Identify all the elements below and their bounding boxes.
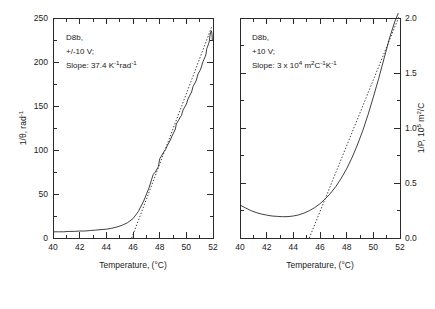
right-panel: 0.0 0.5 1.0 1.5 2.0 40 42 44 46 48 50 52… (235, 13, 426, 270)
left-annotation-line2: +/-10 V; (66, 47, 94, 56)
svg-text:1/P, 105 m2/C: 1/P, 105 m2/C (415, 103, 426, 154)
right-ytick-label: 2.0 (405, 13, 417, 23)
left-yaxis-title: 1/θ, rad-1 (17, 110, 28, 145)
left-annotation-slope-exp2: -1 (131, 59, 137, 66)
right-xtick-label: 42 (262, 242, 272, 252)
right-xaxis-title: Temperature, (°C) (286, 260, 354, 270)
right-data-curve (240, 13, 398, 217)
left-yaxis-title-base: 1/θ, rad (18, 116, 28, 145)
left-xtick-label: 52 (208, 242, 218, 252)
left-yaxis-title-exponent: -1 (17, 110, 24, 116)
left-yaxis-ticks-right (207, 18, 213, 238)
right-yaxis-title: 1/P, 105 m2/C (415, 103, 426, 154)
left-ytick-label: 50 (39, 189, 49, 199)
left-xtick-label: 40 (48, 242, 58, 252)
left-panel: 0 50 100 150 200 250 40 42 44 46 48 50 5… (17, 13, 218, 270)
right-annotation-line1: D8b, (252, 33, 269, 42)
left-ytick-labels: 0 50 100 150 200 250 (34, 13, 48, 243)
right-fit-line (309, 16, 399, 238)
right-xtick-label: 40 (235, 242, 245, 252)
figure-container: 0 50 100 150 200 250 40 42 44 46 48 50 5… (0, 0, 435, 309)
left-xtick-label: 50 (182, 242, 192, 252)
right-yaxis-title-tail-end: /C (416, 103, 426, 112)
right-yaxis-title-tail-base: m (416, 115, 426, 124)
left-ytick-label: 200 (34, 57, 48, 67)
right-xaxis-ticks (240, 232, 400, 238)
left-annotation-slope-mid: rad (120, 61, 132, 70)
left-fit-line (132, 27, 212, 238)
left-annotation: D8b, +/-10 V; Slope: 37.4 K-1rad-1 (66, 33, 137, 70)
right-yaxis-ticks (394, 18, 400, 238)
left-xtick-label: 44 (102, 242, 112, 252)
right-annotation-slope-base: Slope: 3 x 10 (252, 61, 299, 70)
right-yaxis-title-base: 1/P, 10 (416, 127, 426, 153)
left-xtick-label: 46 (128, 242, 138, 252)
right-annotation-line2: +10 V; (252, 47, 275, 56)
right-xtick-label: 46 (315, 242, 325, 252)
right-annotation: D8b, +10 V; Slope: 3 x 104 m2C-1K-1 (252, 33, 337, 70)
left-xaxis-ticks-top (53, 18, 213, 24)
right-xtick-labels: 40 42 44 46 48 50 52 (235, 242, 405, 252)
left-xtick-label: 42 (75, 242, 85, 252)
right-annotation-slope-mid: m (302, 61, 311, 70)
left-yaxis-ticks (53, 18, 59, 238)
left-annotation-line3: Slope: 37.4 K-1rad-1 (66, 59, 137, 70)
left-ytick-label: 250 (34, 13, 48, 23)
left-xtick-labels: 40 42 44 46 48 50 52 (48, 242, 218, 252)
left-xaxis-title: Temperature, (°C) (99, 260, 167, 270)
right-annotation-line3: Slope: 3 x 104 m2C-1K-1 (252, 59, 337, 70)
right-xtick-label: 44 (289, 242, 299, 252)
left-ytick-label: 150 (34, 101, 48, 111)
left-xtick-label: 48 (155, 242, 165, 252)
right-xtick-label: 52 (395, 242, 405, 252)
left-ytick-label: 100 (34, 145, 48, 155)
svg-text:1/θ, rad-1: 1/θ, rad-1 (17, 110, 28, 145)
left-annotation-slope-base: Slope: 37.4 K (66, 61, 115, 70)
left-annotation-line1: D8b, (66, 33, 83, 42)
right-ytick-label: 0.0 (405, 233, 417, 243)
right-xtick-label: 50 (369, 242, 379, 252)
right-xaxis-ticks-top (240, 18, 400, 24)
right-ytick-label: 0.5 (405, 178, 417, 188)
right-ytick-label: 1.5 (405, 68, 417, 78)
right-xtick-label: 48 (342, 242, 352, 252)
figure-svg: 0 50 100 150 200 250 40 42 44 46 48 50 5… (0, 0, 435, 309)
right-annotation-slope-exp4: -1 (331, 59, 337, 66)
